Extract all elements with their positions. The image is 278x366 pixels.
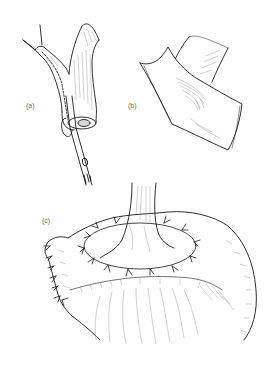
surgical-illustration: (a) (b) (c) [0,0,278,366]
panel-label-c: (c) [42,217,50,224]
panel-label-b: (b) [128,102,137,109]
panel-label-a: (a) [26,102,35,109]
panel-c-drawing [0,0,278,366]
